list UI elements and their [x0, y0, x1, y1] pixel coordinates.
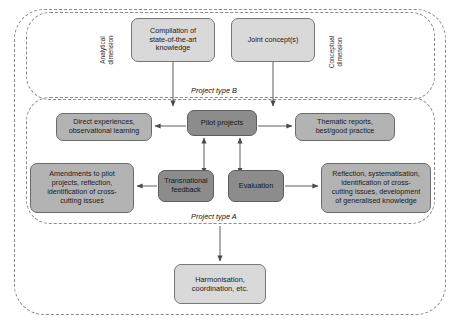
node-reflection-line4: of generalised knowledge: [332, 197, 421, 206]
node-thematic-reports-line2: best/good practice: [316, 127, 375, 136]
node-transnational-feedback: Transnational feedback: [158, 170, 214, 202]
node-evaluation: Evaluation: [228, 170, 284, 202]
node-compilation-of-knowledge: Compilation of state-of-the-art knowledg…: [131, 18, 215, 62]
node-amendments-to-pilot-projects: Amendments to pilot projects, reflection…: [30, 163, 134, 213]
node-thematic-reports: Thematic reports, best/good practice: [295, 113, 395, 141]
conceptual-dimension-line1: Conceptual: [328, 23, 336, 81]
conceptual-dimension-label: Conceptual dimension: [328, 23, 344, 81]
node-amendments-line4: cutting issues: [47, 197, 117, 206]
project-type-a-caption: Project type A: [191, 212, 237, 221]
node-pilot-projects-line1: Pilot projects: [201, 118, 243, 127]
node-reflection-systematisation: Reflection, systematisation, identificat…: [321, 163, 431, 213]
analytical-dimension-line1: Analytical: [99, 21, 107, 79]
node-direct-experiences-line2: observational learning: [69, 127, 139, 136]
node-compilation-line3: knowledge: [149, 44, 196, 53]
node-joint-concepts-line1: Joint concept(s): [248, 36, 299, 45]
conceptual-dimension-line2: dimension: [336, 23, 344, 81]
node-harmonisation-line2: coordination, etc.: [192, 284, 248, 293]
node-harmonisation-line1: Harmonisation,: [192, 275, 248, 284]
project-type-b-caption: Project type B: [191, 86, 237, 95]
node-direct-experiences: Direct experiences, observational learni…: [56, 113, 152, 141]
diagram-canvas: Analytical dimension Conceptual dimensio…: [0, 0, 457, 323]
node-joint-concepts: Joint concept(s): [231, 18, 315, 62]
node-transnational-feedback-line2: feedback: [164, 186, 207, 195]
node-pilot-projects: Pilot projects: [187, 110, 257, 136]
analytical-dimension-line2: dimension: [107, 21, 115, 79]
node-harmonisation-coordination: Harmonisation, coordination, etc.: [174, 264, 266, 304]
node-evaluation-line1: Evaluation: [239, 181, 274, 190]
analytical-dimension-label: Analytical dimension: [99, 21, 115, 79]
